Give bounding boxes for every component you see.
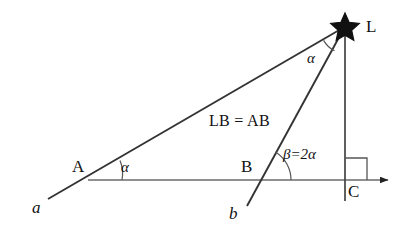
label-point-A: A xyxy=(72,158,84,175)
right-angle-marker-C xyxy=(345,158,367,180)
label-angle-at-A: α xyxy=(121,160,129,175)
label-ray-a: a xyxy=(32,199,41,216)
geometry-diagram: L A B C a b α α β=2α LB = AB xyxy=(0,0,417,244)
segment-equality-note: LB = AB xyxy=(209,113,270,129)
label-angle-at-L: α xyxy=(307,51,315,66)
label-point-C: C xyxy=(348,183,359,200)
label-point-L: L xyxy=(366,18,376,35)
label-ray-b: b xyxy=(229,205,238,222)
label-point-B: B xyxy=(241,158,252,175)
label-angle-at-B: β=2α xyxy=(283,147,316,162)
angle-arc-L xyxy=(324,40,335,50)
